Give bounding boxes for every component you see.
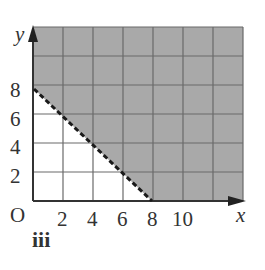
y-tick-6: 6 — [10, 109, 21, 130]
y-tick-2: 2 — [10, 166, 21, 187]
origin-label: O — [10, 205, 25, 226]
y-axis-label: y — [15, 24, 24, 45]
y-tick-4: 4 — [10, 137, 21, 158]
x-axis-label: x — [236, 205, 245, 226]
x-tick-2: 2 — [57, 209, 68, 230]
x-tick-10: 10 — [172, 209, 193, 230]
x-tick-8: 8 — [147, 209, 158, 230]
y-tick-8: 8 — [10, 80, 21, 101]
x-tick-4: 4 — [87, 209, 98, 230]
x-tick-6: 6 — [117, 209, 128, 230]
figure-caption: iii — [32, 227, 50, 253]
